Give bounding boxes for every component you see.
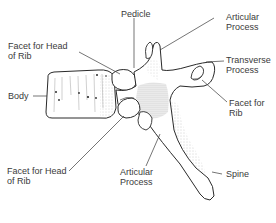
label-text: of Rib [8,51,68,61]
label-text: Process [226,65,271,75]
label-text: Articular [120,167,153,177]
label-text: Pedicle [121,9,151,19]
label-text: Rib [229,108,265,118]
label-spine: Spine [226,169,249,179]
vertebral-body [46,70,116,118]
label-text: Transverse [226,55,271,65]
label-text: Facet for Head [7,166,67,176]
label-facet-head-rib-superior: Facet for Head of Rib [8,41,68,61]
label-text: Facet for Head [8,41,68,51]
label-articular-process-superior: Articular Process [226,12,259,32]
label-text: Process [226,22,259,32]
label-transverse-process: Transverse Process [226,55,271,75]
label-facet-for-rib: Facet for Rib [229,98,265,118]
label-text: Spine [226,169,249,179]
label-body: Body [8,91,29,101]
inferior-articular-process [138,112,152,130]
label-text: Body [8,91,29,101]
label-facet-head-rib-inferior: Facet for Head of Rib [7,166,67,186]
label-text: of Rib [7,176,67,186]
label-articular-process-inferior: Articular Process [120,167,153,187]
facet-head-rib-superior [112,70,136,91]
label-text: Facet for [229,98,265,108]
label-text: Process [120,177,153,187]
superior-articular-process [146,42,153,59]
label-pedicle: Pedicle [121,9,151,19]
vertebra-diagram: Pedicle Articular Process Transverse Pro… [0,0,276,223]
label-text: Articular [226,12,259,22]
